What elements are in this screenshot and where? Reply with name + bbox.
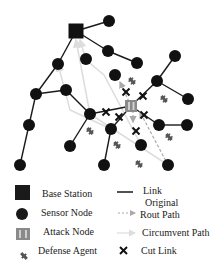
sensor-node-icon xyxy=(131,57,143,69)
sensor-node-icon xyxy=(182,93,194,105)
sensor-node-icon xyxy=(169,50,181,62)
sensor-node-icon xyxy=(103,15,115,27)
legend-label-link: Link xyxy=(143,185,162,196)
legend-label-original-route-line2: Rout Path xyxy=(140,209,180,220)
original-route-path xyxy=(140,112,168,165)
defense-agent-icon xyxy=(127,76,137,86)
sensor-node-icon xyxy=(80,53,92,65)
attack-node-icon xyxy=(16,228,30,240)
defense-agent-icon xyxy=(112,140,122,150)
legend-label-sensor-node: Sensor Node xyxy=(41,207,93,218)
defense-agent-icon xyxy=(19,251,29,261)
sensor-node-icon xyxy=(14,159,26,171)
attack-node-icon xyxy=(125,100,137,112)
sensor-node-icon xyxy=(135,139,147,151)
defense-agent-icon xyxy=(85,126,95,136)
cut-link-icon xyxy=(120,247,127,254)
sensor-node-icon xyxy=(60,84,72,96)
sensor-node-icon xyxy=(181,119,193,131)
base-station xyxy=(69,24,84,39)
base-station-icon xyxy=(15,185,30,200)
defense-agent-icon xyxy=(134,159,144,169)
sensor-node-icon xyxy=(23,119,35,131)
legend: Base Station Sensor Node Attack Node Def… xyxy=(15,185,210,261)
attack-node xyxy=(125,100,137,112)
link xyxy=(20,125,29,165)
sensor-node-icon xyxy=(102,45,114,57)
legend-label-attack-node: Attack Node xyxy=(43,226,94,237)
defense-agent-icon xyxy=(164,132,174,142)
legend-label-defense-agent: Defense Agent xyxy=(38,245,97,256)
sensor-node-icon xyxy=(52,58,64,70)
legend-label-cut-link: Cut Link xyxy=(141,245,177,256)
sensor-node-icon xyxy=(64,140,76,152)
sensor-node-icon xyxy=(109,69,121,81)
base-station-icon xyxy=(69,24,84,39)
legend-label-base-station: Base Station xyxy=(42,188,92,199)
network-diagram: Base Station Sensor Node Attack Node Def… xyxy=(0,0,215,273)
sensor-nodes xyxy=(14,15,194,171)
sensor-node-icon xyxy=(16,208,28,220)
sensor-node-icon xyxy=(30,88,42,100)
sensor-node-icon xyxy=(84,108,96,120)
sensor-node-icon xyxy=(153,119,165,131)
legend-label-circumvent-path: Circumvent Path xyxy=(142,227,210,238)
legend-label-original-route-line1: Original xyxy=(145,197,179,208)
defense-agent-icon xyxy=(159,94,169,104)
links xyxy=(20,21,188,165)
sensor-node-icon xyxy=(98,159,110,171)
sensor-node-icon xyxy=(151,75,163,87)
sensor-node-icon xyxy=(105,123,117,135)
sensor-node-icon xyxy=(162,159,174,171)
